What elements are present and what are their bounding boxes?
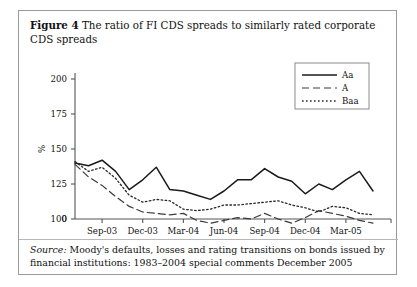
y-baseline-label: 0 [62, 214, 67, 224]
line-chart: 2001751501251000%Sep-03Dec-03Mar-04Jun-0… [19, 51, 398, 243]
figure-caption: Figure 4 The ratio of FI CDS spreads to … [30, 19, 382, 46]
source-text: Moody's defaults, losses and rating tran… [30, 244, 385, 268]
source-note: Source: Moody's defaults, losses and rat… [30, 244, 390, 269]
x-tick-label: Mar-05 [330, 226, 362, 236]
source-label: Source: [30, 244, 67, 255]
x-tick-label: Dec-03 [127, 226, 158, 236]
legend-label-a: A [341, 83, 349, 93]
x-tick-label: Mar-04 [167, 226, 199, 236]
figure-panel: Figure 4 The ratio of FI CDS spreads to … [18, 10, 397, 275]
figure-number: Figure 4 [30, 19, 79, 31]
x-tick-label: Jun-04 [209, 226, 239, 236]
source-divider [19, 239, 398, 240]
y-tick-label: 125 [51, 179, 67, 189]
x-tick-label: Sep-04 [249, 226, 280, 236]
x-tick-label: Dec-04 [290, 226, 321, 236]
series-line-a [75, 164, 373, 223]
series-line-aa [75, 160, 373, 199]
y-tick-label: 150 [51, 144, 67, 154]
y-tick-label: 200 [51, 74, 67, 84]
x-tick-label: Sep-03 [87, 226, 117, 236]
legend-label-aa: Aa [341, 70, 353, 80]
figure-caption-text: The ratio of FI CDS spreads to similarly… [30, 19, 375, 45]
legend-label-baa: Baa [342, 96, 359, 106]
y-tick-label: 175 [51, 109, 67, 119]
y-axis-title: % [37, 145, 47, 153]
chart-legend: AaABaa [295, 63, 369, 109]
chart-plot-area: 2001751501251000%Sep-03Dec-03Mar-04Jun-0… [19, 51, 398, 243]
